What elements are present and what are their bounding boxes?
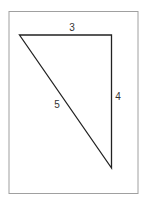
label-hypotenuse: 5 [54, 99, 60, 110]
diagram-canvas: 3 4 5 [0, 0, 146, 202]
label-top-side: 3 [69, 22, 75, 33]
frame-border [9, 12, 138, 194]
label-right-side: 4 [115, 91, 121, 102]
right-triangle [20, 35, 112, 168]
